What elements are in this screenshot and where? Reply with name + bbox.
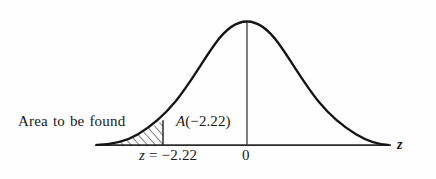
z-value-tick-label: z = −2.22 (139, 148, 197, 163)
zero-tick-label: 0 (242, 148, 250, 163)
z-value-text: = −2.22 (145, 147, 197, 163)
z-axis-name-label: z (397, 138, 402, 152)
normal-distribution-curve (97, 22, 388, 145)
area-function-label: A(−2.22) (176, 114, 231, 129)
normal-curve-plot (0, 0, 436, 179)
area-to-be-found-label: Area to be found (18, 114, 125, 129)
normal-curve-figure: Area to be found A(−2.22) z = −2.22 0 z (0, 0, 436, 179)
area-function-name: A (176, 113, 185, 129)
area-function-argument: (−2.22) (185, 113, 230, 129)
